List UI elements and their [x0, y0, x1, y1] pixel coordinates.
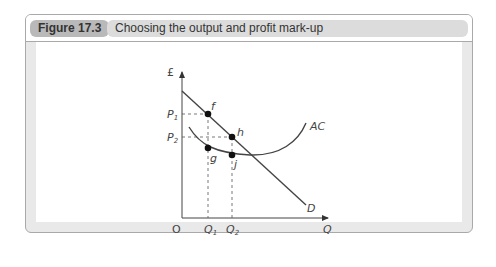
x-axis-label: Q — [323, 223, 332, 236]
j-label: j — [232, 158, 238, 171]
point-g — [205, 145, 212, 152]
point-h — [229, 134, 236, 141]
g-label: g — [210, 152, 217, 165]
p2-label: P2 — [167, 131, 179, 145]
cost-demand-diagram: £ P1 P2 f h g j AC D O Q1 Q2 Q — [0, 0, 496, 267]
p1-label: P1 — [167, 108, 178, 122]
y-axis-label: £ — [167, 66, 174, 79]
d-label: D — [307, 202, 315, 215]
q2-label: Q2 — [226, 223, 240, 237]
ac-label: AC — [309, 120, 326, 133]
demand-curve — [182, 91, 306, 205]
f-label: f — [211, 100, 217, 113]
q1-label: Q1 — [204, 223, 217, 237]
origin-label: O — [172, 223, 181, 236]
h-label: h — [237, 126, 244, 139]
